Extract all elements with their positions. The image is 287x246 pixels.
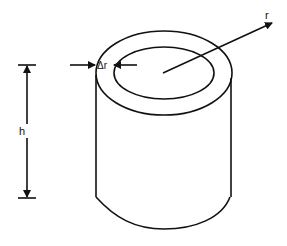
- radius-label: r: [265, 9, 269, 21]
- bottom-arc: [96, 197, 230, 229]
- cylindrical-shell-diagram: r Δr h: [0, 0, 287, 246]
- height-label: h: [19, 125, 25, 137]
- thickness-label: Δr: [97, 60, 108, 71]
